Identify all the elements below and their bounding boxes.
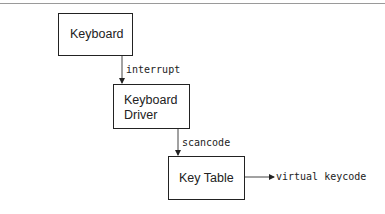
node-key-table: Key Table <box>168 156 245 200</box>
node-key-table-label: Key Table <box>179 171 244 186</box>
node-keyboard-label: Keyboard <box>70 27 132 42</box>
node-keyboard: Keyboard <box>58 13 133 56</box>
node-keyboard-driver: Keyboard Driver <box>113 84 190 129</box>
edge-label-scancode: scancode <box>182 137 230 148</box>
node-keyboard-driver-label-line1: Keyboard <box>124 93 189 108</box>
node-keyboard-driver-label-line2: Driver <box>124 108 189 123</box>
edge-label-interrupt: interrupt <box>126 64 180 75</box>
edge-label-virtual-keycode: virtual keycode <box>276 171 366 182</box>
